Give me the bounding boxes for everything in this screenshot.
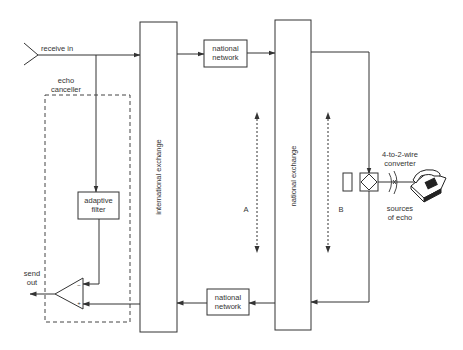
echo-canceller-diagram: receive in echo canceller adaptive filte…: [0, 0, 463, 350]
converter-label-2: converter: [384, 159, 416, 168]
national-network-top-label-1: national: [212, 44, 239, 53]
receive-in-antenna-icon: [24, 43, 38, 65]
send-out-label-1: send: [24, 269, 40, 278]
national-network-bottom-label-2: network: [215, 302, 242, 311]
national-network-top-label-2: network: [212, 53, 239, 62]
national-exchange-label: national exchange: [289, 146, 298, 207]
adaptive-filter-label-2: filter: [91, 205, 106, 214]
sources-of-echo-label-1: sources: [387, 204, 414, 213]
subtractor-minus: −: [77, 282, 81, 288]
converter-hybrid-icon: [343, 173, 378, 191]
path-b-label: B: [338, 205, 343, 214]
telephone-icon: [411, 170, 446, 202]
path-a-label: A: [243, 205, 248, 214]
subtractor-plus: +: [77, 300, 81, 306]
echo-canceller-label-2: canceller: [51, 85, 82, 94]
natex-to-converter-line: [311, 52, 369, 174]
adaptive-filter-label-1: adaptive: [84, 196, 112, 205]
filter-output-line: [83, 219, 99, 284]
send-out-label-2: out: [27, 278, 38, 287]
sources-of-echo-label-2: of echo: [388, 213, 413, 222]
national-network-bottom-label-1: national: [215, 293, 242, 302]
receive-in-label: receive in: [41, 44, 73, 53]
converter-label-1: 4-to-2-wire: [382, 150, 418, 159]
path-b-arrow: [326, 112, 331, 253]
path-a-arrow: [255, 112, 260, 253]
international-exchange-label: international exchange: [154, 139, 163, 214]
echo-canceller-label-1: echo: [58, 76, 74, 85]
